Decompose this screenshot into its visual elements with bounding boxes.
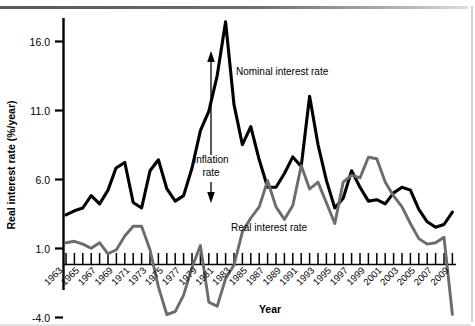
y-axis-title: Real interest rate (%/year) (5, 101, 17, 230)
inflation-rate-annotation: Inflation rate (193, 51, 228, 203)
inflation-rate-label-line2: rate (202, 167, 220, 178)
x-tick-marks (66, 253, 452, 264)
y-tick-label-11: 11.0 (30, 105, 50, 117)
series-real-interest-rate (66, 157, 452, 314)
nominal-series-label: Nominal interest rate (236, 66, 329, 77)
x-axis-title: Year (259, 303, 281, 315)
y-tick-label-1: 1.0 (35, 243, 50, 255)
y-tick-label-16: 16.0 (30, 36, 51, 48)
y-tick-label-neg4: -4.0 (32, 312, 50, 324)
x-tick-labels: 1963 1965 1967 1969 1971 1973 1975 1977 … (42, 265, 451, 288)
real-series-label: Real interest rate (231, 222, 308, 233)
y-tick-label-6: 6.0 (35, 174, 50, 186)
inflation-rate-label-line1: Inflation (193, 154, 228, 165)
chart-figure: Real interest rate (%/year) 16.0 11.0 6.… (0, 0, 475, 326)
line-chart-plot: Real interest rate (%/year) 16.0 11.0 6.… (0, 0, 475, 326)
